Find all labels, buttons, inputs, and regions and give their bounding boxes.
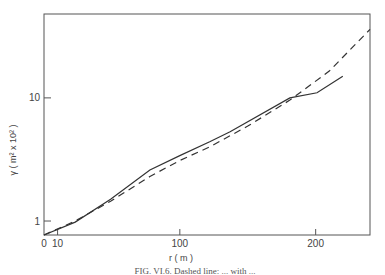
x-tick-label: 10 <box>52 238 64 249</box>
x-axis-label: r ( m ) <box>169 253 193 263</box>
x-tick-label: 0 <box>41 238 47 249</box>
series-line-observed <box>44 76 343 235</box>
chart: 010100200 110 r ( m ) γ ( m² x 10² ) FIG… <box>0 0 385 275</box>
figure-caption: FIG. VI.6. Dashed line: ... with ... <box>134 266 255 275</box>
y-tick-label: 1 <box>34 216 40 227</box>
x-tick-label: 100 <box>171 238 188 249</box>
x-axis-ticks: 010100200 <box>41 229 324 249</box>
y-axis-ticks: 110 <box>29 92 51 226</box>
series-group <box>44 29 370 235</box>
series-line-fit <box>44 29 370 235</box>
y-tick-label: 10 <box>29 92 41 103</box>
y-axis-label: γ ( m² x 10² ) <box>8 124 18 175</box>
x-tick-label: 200 <box>307 238 324 249</box>
plot-frame <box>44 14 370 235</box>
